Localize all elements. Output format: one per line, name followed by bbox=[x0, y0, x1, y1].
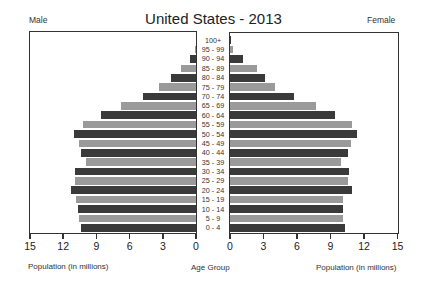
age-group-label: 90 - 94 bbox=[196, 54, 230, 63]
left-axis-tick-label: 12 bbox=[53, 240, 73, 252]
male-bar bbox=[181, 65, 196, 73]
female-bar bbox=[230, 177, 348, 185]
center-axis-title: Age Group bbox=[191, 263, 230, 272]
male-bar bbox=[81, 224, 196, 232]
age-group-label: 75 - 79 bbox=[196, 83, 230, 92]
male-bar bbox=[143, 93, 196, 101]
right-axis-tick bbox=[263, 233, 265, 239]
female-bar bbox=[230, 186, 352, 194]
male-bar bbox=[159, 83, 196, 91]
male-bar bbox=[74, 130, 196, 138]
female-bar bbox=[230, 224, 345, 232]
female-bar bbox=[230, 74, 265, 82]
male-bar bbox=[79, 140, 196, 148]
right-axis-tick bbox=[397, 233, 399, 239]
male-bar bbox=[75, 168, 196, 176]
age-group-label: 55 - 59 bbox=[196, 120, 230, 129]
age-group-label: 50 - 54 bbox=[196, 130, 230, 139]
right-axis-tick bbox=[330, 233, 332, 239]
male-label: Male bbox=[29, 15, 47, 25]
age-group-label: 25 - 29 bbox=[196, 176, 230, 185]
left-axis-tick-label: 0 bbox=[186, 240, 206, 252]
age-group-label: 100+ bbox=[196, 36, 230, 45]
female-bar bbox=[230, 168, 349, 176]
female-bar bbox=[230, 215, 343, 223]
female-bar bbox=[230, 140, 351, 148]
chart-title: United States - 2013 bbox=[0, 10, 427, 27]
male-bar bbox=[171, 74, 196, 82]
left-axis-title: Population (in millions) bbox=[28, 262, 108, 271]
left-axis-tick bbox=[195, 233, 197, 239]
female-bar bbox=[230, 130, 357, 138]
female-bar bbox=[230, 149, 348, 157]
right-axis-title: Population (in millions) bbox=[316, 263, 396, 272]
female-bar bbox=[230, 196, 343, 204]
female-bar bbox=[230, 83, 275, 91]
left-axis-tick-label: 6 bbox=[120, 240, 140, 252]
female-bar bbox=[230, 205, 343, 213]
age-group-label: 5 - 9 bbox=[196, 214, 230, 223]
male-bar bbox=[86, 158, 196, 166]
left-axis-tick bbox=[29, 233, 31, 239]
age-group-label: 45 - 49 bbox=[196, 139, 230, 148]
male-bar bbox=[83, 121, 196, 129]
male-bar bbox=[71, 186, 196, 194]
age-group-label: 70 - 74 bbox=[196, 92, 230, 101]
left-axis-tick-label: 9 bbox=[86, 240, 106, 252]
age-group-label: 0 - 4 bbox=[196, 223, 230, 232]
right-axis-tick-label: 12 bbox=[354, 240, 374, 252]
female-label: Female bbox=[367, 15, 395, 25]
age-group-label: 35 - 39 bbox=[196, 158, 230, 167]
left-axis-tick bbox=[129, 233, 131, 239]
right-axis-tick-label: 9 bbox=[321, 240, 341, 252]
male-bar bbox=[75, 177, 196, 185]
age-group-label: 10 - 14 bbox=[196, 205, 230, 214]
male-bar bbox=[76, 196, 196, 204]
female-bar bbox=[230, 36, 231, 44]
female-bar bbox=[230, 158, 341, 166]
male-bar bbox=[81, 149, 196, 157]
age-group-label: 80 - 84 bbox=[196, 73, 230, 82]
left-axis-tick bbox=[96, 233, 98, 239]
right-axis-tick-label: 0 bbox=[220, 240, 240, 252]
left-axis-tick bbox=[62, 233, 64, 239]
male-bar bbox=[121, 102, 196, 110]
female-bar bbox=[230, 121, 352, 129]
age-group-label: 20 - 24 bbox=[196, 186, 230, 195]
left-axis-tick-label: 3 bbox=[153, 240, 173, 252]
female-bar bbox=[230, 55, 243, 63]
right-axis-tick-label: 6 bbox=[287, 240, 307, 252]
right-axis-tick-label: 15 bbox=[388, 240, 408, 252]
male-bar bbox=[101, 111, 196, 119]
age-group-label: 15 - 19 bbox=[196, 195, 230, 204]
right-axis-tick bbox=[229, 233, 231, 239]
left-axis-tick bbox=[162, 233, 164, 239]
right-axis-tick bbox=[363, 233, 365, 239]
age-group-label: 65 - 69 bbox=[196, 101, 230, 110]
female-bar bbox=[230, 65, 257, 73]
left-axis-tick-label: 15 bbox=[20, 240, 40, 252]
female-bar bbox=[230, 111, 335, 119]
right-axis-tick-label: 3 bbox=[254, 240, 274, 252]
age-group-label: 60 - 64 bbox=[196, 111, 230, 120]
age-group-label: 85 - 89 bbox=[196, 64, 230, 73]
female-bar bbox=[230, 102, 316, 110]
female-bar bbox=[230, 93, 294, 101]
female-bar bbox=[230, 46, 233, 54]
age-group-label: 40 - 44 bbox=[196, 148, 230, 157]
age-group-label: 95 - 99 bbox=[196, 45, 230, 54]
male-bar bbox=[78, 205, 196, 213]
age-group-label: 30 - 34 bbox=[196, 167, 230, 176]
right-axis-tick bbox=[296, 233, 298, 239]
male-bar bbox=[79, 215, 196, 223]
